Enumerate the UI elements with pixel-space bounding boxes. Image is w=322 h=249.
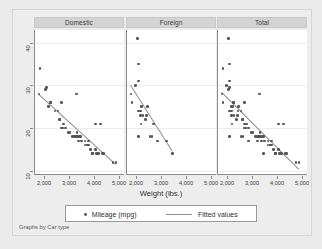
x-tick-mark (44, 176, 45, 179)
data-point (87, 144, 90, 147)
data-point (282, 123, 285, 126)
data-point (231, 123, 234, 126)
gridline (127, 43, 216, 44)
data-point (97, 152, 100, 155)
gridline (35, 43, 124, 44)
data-point (236, 114, 239, 117)
data-point (131, 101, 134, 104)
panel-header-total: Total (217, 17, 307, 28)
legend-marker-line (166, 214, 192, 215)
x-tick-mark (119, 176, 120, 179)
x-tick-label: 5,000 (291, 180, 313, 186)
data-point (232, 105, 235, 108)
x-tick-label: 4,000 (266, 180, 288, 186)
data-point (274, 152, 277, 155)
data-point (237, 105, 240, 108)
data-point (272, 148, 275, 151)
x-tick-mark (69, 176, 70, 179)
x-tick-mark (94, 176, 95, 179)
y-tick-label: 10 (25, 170, 31, 183)
data-point (139, 110, 142, 113)
data-point (262, 135, 265, 138)
panel-header-foreign: Foreign (126, 17, 216, 28)
gridline (218, 171, 307, 172)
data-point (39, 67, 42, 70)
data-point (137, 63, 140, 66)
data-point (165, 140, 168, 143)
x-tick-label: 4,000 (83, 180, 105, 186)
data-point (47, 105, 50, 108)
legend-label-mileage: Mileage (mpg) (92, 211, 137, 218)
data-point (280, 152, 283, 155)
x-axis-title: Weight (lbs.) (12, 189, 310, 198)
data-point (259, 131, 262, 134)
data-point (228, 80, 231, 83)
data-point (228, 135, 231, 138)
gridline (127, 171, 216, 172)
data-point (237, 110, 240, 113)
data-point (112, 161, 115, 164)
y-tick-label: 40 (25, 42, 31, 55)
data-point (49, 101, 52, 104)
x-tick-mark (277, 176, 278, 179)
x-tick-label: 3,000 (241, 180, 263, 186)
panel-header-domestic: Domestic (34, 17, 124, 28)
data-point (256, 140, 259, 143)
data-point (59, 118, 62, 121)
data-point (242, 135, 245, 138)
data-point (136, 37, 139, 40)
x-tick-label: 2,000 (125, 180, 147, 186)
y-tick-label: 20 (25, 127, 31, 140)
stata-graph-figure: Domestic2,0003,0004,0005,000Foreign2,000… (0, 0, 322, 249)
data-point (115, 161, 118, 164)
data-point (270, 144, 273, 147)
x-tick-mark (302, 176, 303, 179)
data-point (285, 152, 288, 155)
data-point (152, 123, 155, 126)
data-point (142, 114, 145, 117)
legend-entry-mileage: Mileage (mpg) (84, 206, 137, 223)
data-point (298, 161, 301, 164)
data-point (137, 80, 140, 83)
chart-legend: Mileage (mpg) Fitted values (65, 205, 257, 222)
data-point (277, 148, 280, 151)
data-point (222, 101, 225, 104)
data-point (62, 123, 65, 126)
data-point (141, 105, 144, 108)
data-point (295, 161, 298, 164)
panel-plot-domestic (34, 30, 124, 175)
data-point (267, 140, 270, 143)
x-tick-mark (227, 176, 228, 179)
x-tick-mark (186, 176, 187, 179)
legend-marker-dot (84, 213, 87, 216)
data-point (252, 131, 255, 134)
graph-footnote: Graphs by Car type (19, 224, 69, 230)
data-point (102, 152, 105, 155)
data-point (145, 114, 148, 117)
data-point (89, 148, 92, 151)
data-point (230, 110, 233, 113)
x-tick-mark (136, 176, 137, 179)
data-point (228, 63, 231, 66)
x-tick-mark (211, 176, 212, 179)
gridline (127, 128, 216, 129)
legend-label-fitted: Fitted values (198, 211, 238, 218)
data-point (263, 140, 266, 143)
gridline (218, 43, 307, 44)
data-point (232, 101, 235, 104)
data-point (144, 118, 147, 121)
x-tick-label: 3,000 (58, 180, 80, 186)
legend-entry-fitted: Fitted values (166, 206, 238, 223)
data-point (222, 67, 225, 70)
data-point (258, 93, 261, 96)
gridline (35, 85, 124, 86)
data-point (45, 86, 48, 89)
data-point (134, 84, 137, 87)
data-point (76, 131, 79, 134)
gridline (218, 128, 307, 129)
panel-plot-total (217, 30, 307, 175)
data-point (60, 101, 63, 104)
x-tick-label: 2,000 (216, 180, 238, 186)
data-point (242, 118, 245, 121)
x-tick-mark (161, 176, 162, 179)
